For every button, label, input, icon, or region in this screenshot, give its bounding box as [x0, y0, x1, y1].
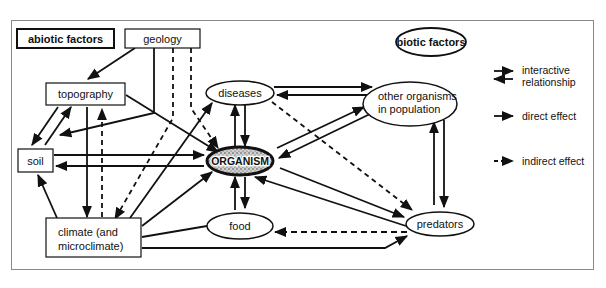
legend: interactive relationship direct effect i… — [494, 64, 584, 167]
svg-text:topography: topography — [58, 88, 114, 100]
svg-text:diseases: diseases — [218, 87, 262, 99]
abiotic-factors-label: abiotic factors — [17, 29, 114, 48]
edge-geology-topography — [88, 48, 135, 79]
node-topography: topography — [46, 83, 125, 105]
ecology-diagram: abiotic factors biotic factors geology t… — [0, 0, 606, 288]
edge-topography-organism — [126, 95, 218, 152]
svg-text:abiotic factors: abiotic factors — [28, 33, 103, 45]
edge-soil-topography — [45, 107, 71, 145]
node-climate: climate (and microclimate) — [46, 218, 141, 257]
edge-others-organism — [279, 114, 370, 158]
edge-climate-soil — [38, 175, 57, 218]
edge-climate-predators — [142, 236, 407, 248]
svg-text:microclimate): microclimate) — [58, 240, 123, 252]
svg-text:direct effect: direct effect — [522, 110, 576, 122]
node-soil: soil — [18, 149, 53, 172]
svg-text:relationship: relationship — [522, 76, 576, 88]
svg-text:in population: in population — [378, 103, 440, 115]
node-other-organisms: other organisms in population — [363, 82, 457, 126]
svg-text:geology: geology — [143, 33, 182, 45]
svg-text:ORGANISM: ORGANISM — [211, 155, 269, 167]
svg-text:biotic factors: biotic factors — [396, 36, 465, 48]
edge-geology-climate — [115, 48, 173, 219]
node-food: food — [207, 213, 273, 239]
biotic-factors-label: biotic factors — [396, 28, 466, 56]
node-predators: predators — [406, 212, 474, 236]
svg-text:predators: predators — [417, 218, 464, 230]
edge-predators-organism — [255, 177, 406, 226]
edge-climate-food — [142, 226, 207, 237]
svg-text:climate (and: climate (and — [58, 226, 118, 238]
svg-text:food: food — [229, 220, 250, 232]
node-geology: geology — [125, 29, 200, 48]
edge-topography-soil — [32, 107, 58, 145]
node-diseases: diseases — [206, 81, 274, 105]
svg-text:indirect effect: indirect effect — [522, 155, 584, 167]
edge-organism-predators — [280, 168, 404, 217]
edge-organism-others — [277, 107, 364, 148]
svg-text:soil: soil — [27, 155, 44, 167]
edge-climate-organism — [142, 172, 212, 226]
legend-interactive-icon — [494, 71, 513, 79]
svg-text:interactive: interactive — [522, 64, 570, 76]
node-organism[interactable]: ORGANISM — [207, 147, 273, 175]
svg-text:other organisms: other organisms — [378, 90, 457, 102]
